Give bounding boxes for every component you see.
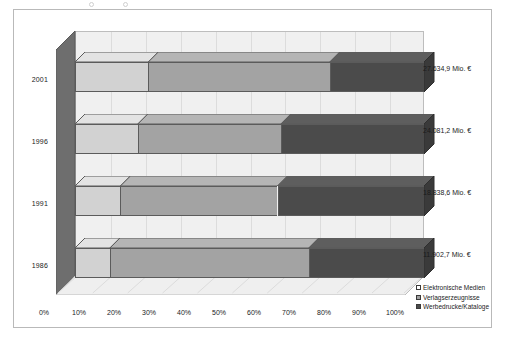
scan-artifact: [89, 2, 94, 7]
value-label-2001: 27.634,9 Mio. €: [423, 65, 471, 72]
bar-segment-verlagserzeugnisse[interactable]: [110, 248, 309, 278]
chart-frame: 2001 1996 1991 1986 0% 10% 20% 30% 40% 5…: [13, 9, 492, 328]
bar-end-cap: [424, 52, 435, 92]
value-label-1996: 24.081,2 Mio. €: [423, 127, 471, 134]
y-axis-label-1991: 1991: [14, 200, 48, 207]
bar-segment-werbedrucke-kataloge[interactable]: [281, 124, 424, 154]
bar-segment-elektronische-medien[interactable]: [75, 248, 110, 278]
plot-sidewall: [56, 31, 76, 295]
bar-segment-elektronische-medien[interactable]: [75, 62, 148, 92]
x-axis-tick-50: 50%: [212, 309, 226, 316]
bar-segment-werbedrucke-kataloge[interactable]: [278, 186, 425, 216]
legend-item-elektronische-medien[interactable]: Elektronische Medien: [416, 283, 489, 293]
bar-segment-elektronische-medien[interactable]: [75, 124, 138, 154]
legend-label: Werbedrucke/Kataloge: [423, 302, 489, 312]
bar-segment-verlagserzeugnisse[interactable]: [138, 124, 281, 154]
legend-swatch-icon: [416, 304, 421, 309]
legend-swatch-icon: [416, 295, 421, 300]
bar-segment-werbedrucke-kataloge[interactable]: [309, 248, 424, 278]
x-axis-tick-80: 80%: [317, 309, 331, 316]
y-axis-label-1986: 1986: [14, 262, 48, 269]
x-axis-tick-40: 40%: [177, 309, 191, 316]
bar-end-cap: [424, 238, 435, 278]
bar-segment-verlagserzeugnisse[interactable]: [120, 186, 277, 216]
y-axis-label-2001: 2001: [14, 76, 48, 83]
bar-row[interactable]: [75, 186, 424, 216]
x-axis-tick-100: 100%: [386, 309, 404, 316]
x-axis-tick-70: 70%: [282, 309, 296, 316]
y-axis-label-1996: 1996: [14, 138, 48, 145]
bar-segment-werbedrucke-kataloge[interactable]: [330, 62, 424, 92]
legend-swatch-icon: [416, 285, 421, 290]
legend-item-verlagserzeugnisse[interactable]: Verlagserzeugnisse: [416, 293, 489, 303]
scan-artifact: [123, 2, 128, 7]
legend-label: Elektronische Medien: [423, 283, 485, 293]
x-axis-tick-30: 30%: [142, 309, 156, 316]
x-axis-tick-20: 20%: [107, 309, 121, 316]
x-axis-tick-0: 0%: [39, 309, 49, 316]
chart-legend: Elektronische Medien Verlagserzeugnisse …: [416, 283, 489, 312]
value-label-1991: 18.838,6 Mio. €: [423, 189, 471, 196]
bar-end-cap: [424, 114, 435, 154]
legend-label: Verlagserzeugnisse: [423, 293, 480, 303]
x-axis-tick-90: 90%: [352, 309, 366, 316]
chart-figure: 2001 1996 1991 1986 0% 10% 20% 30% 40% 5…: [0, 0, 506, 340]
bar-row[interactable]: [75, 62, 424, 92]
bar-segment-verlagserzeugnisse[interactable]: [148, 62, 330, 92]
bar-row[interactable]: [75, 124, 424, 154]
x-axis-tick-10: 10%: [72, 309, 86, 316]
value-label-1986: 11.902,7 Mio. €: [423, 251, 471, 258]
bar-row[interactable]: [75, 248, 424, 278]
x-axis-tick-60: 60%: [247, 309, 261, 316]
legend-item-werbedrucke-kataloge[interactable]: Werbedrucke/Kataloge: [416, 302, 489, 312]
bar-end-cap: [424, 176, 435, 216]
plot-area: [56, 31, 424, 295]
bar-segment-elektronische-medien[interactable]: [75, 186, 120, 216]
